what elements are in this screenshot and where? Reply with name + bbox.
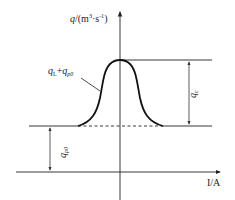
x-axis-label: I/A <box>207 177 221 188</box>
qp0-label: qp0 <box>57 147 69 158</box>
y-axis-label: q/(m3·s-1) <box>70 13 107 25</box>
curve-label-leader <box>81 78 100 91</box>
flow-curve <box>78 60 163 126</box>
curve-label: qL+qp0 <box>48 65 73 77</box>
flow-current-diagram: q/(m3·s-1) I/A qL+qp0 qc qp0 <box>0 0 235 200</box>
